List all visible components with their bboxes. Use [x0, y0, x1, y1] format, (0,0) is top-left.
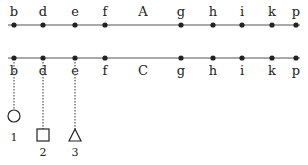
- point-label-d: d: [39, 4, 47, 19]
- point-label-k: k: [268, 63, 276, 78]
- point-k: [269, 55, 274, 60]
- line-a: bdefghikp A: [8, 4, 300, 28]
- line-a-name: A: [137, 4, 148, 19]
- point-f: [102, 22, 107, 27]
- point-label-f: f: [103, 4, 109, 19]
- point-e: [72, 22, 77, 27]
- point-h: [210, 22, 215, 27]
- point-g: [178, 22, 183, 27]
- circle-marker: [8, 110, 20, 122]
- point-label-g: g: [177, 4, 185, 19]
- point-label-b: b: [10, 4, 18, 19]
- square-marker: [37, 129, 49, 141]
- point-k: [269, 22, 274, 27]
- point-f: [102, 55, 107, 60]
- point-label-p: p: [292, 63, 300, 78]
- point-label-h: h: [209, 4, 218, 19]
- point-i: [239, 22, 244, 27]
- marker-label-1: 1: [11, 131, 18, 144]
- marker-label-2: 2: [40, 146, 47, 159]
- point-label-i: i: [240, 63, 244, 78]
- point-label-e: e: [71, 4, 79, 19]
- point-d: [40, 22, 45, 27]
- point-b: [11, 22, 16, 27]
- point-label-k: k: [268, 4, 276, 19]
- marker-label-3: 3: [72, 146, 79, 159]
- point-h: [210, 55, 215, 60]
- point-d: [40, 55, 45, 60]
- point-b: [11, 55, 16, 60]
- triangle-marker: [69, 129, 81, 141]
- point-p: [293, 22, 298, 27]
- point-e: [72, 55, 77, 60]
- point-label-i: i: [240, 4, 244, 19]
- point-label-f: f: [103, 63, 109, 78]
- point-i: [239, 55, 244, 60]
- diagram-canvas: bdefghikp A bdefghikp C 1 2 3: [0, 0, 308, 165]
- point-p: [293, 55, 298, 60]
- point-label-p: p: [292, 4, 300, 19]
- point-label-g: g: [177, 63, 185, 78]
- line-c: bdefghikp C: [8, 55, 300, 78]
- point-label-h: h: [209, 63, 218, 78]
- point-g: [178, 55, 183, 60]
- line-c-name: C: [138, 63, 148, 78]
